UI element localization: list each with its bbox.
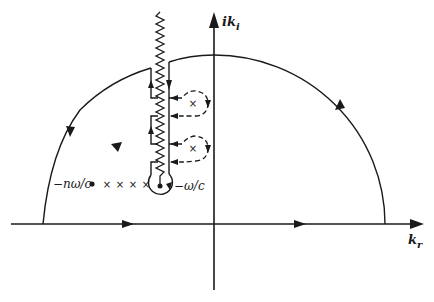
branch-cut	[156, 12, 164, 186]
pole-marker-icon: ×	[189, 98, 197, 109]
direction-arrow-icon	[205, 145, 211, 153]
pole-row-label: −nω/c	[53, 177, 92, 191]
imaginary-axis-arrowhead-icon	[209, 12, 219, 28]
pole-marker-icon: ×	[103, 179, 111, 190]
direction-arrow-icon	[205, 100, 211, 108]
contour-diagram: kr iki × × −ω/c −nω/c	[0, 0, 434, 302]
direction-arrow-icon	[294, 220, 306, 228]
pole-marker-icon: ×	[116, 179, 124, 190]
direction-arrow-icon	[166, 80, 172, 90]
imaginary-axis: iki	[209, 12, 240, 290]
direction-arrow-icon	[170, 159, 178, 165]
direction-arrow-icon	[148, 80, 154, 88]
pole-marker-icon: ×	[129, 179, 137, 190]
direction-arrow-icon	[111, 142, 122, 152]
pole-dot-icon	[89, 181, 94, 186]
direction-arrow-icon	[122, 220, 134, 228]
direction-arrow-icon	[148, 126, 154, 134]
direction-arrow-icon	[170, 113, 178, 119]
direction-arrow-icon	[335, 99, 345, 110]
branch-point-dot-icon	[158, 184, 163, 189]
real-axis-label: kr	[408, 232, 423, 250]
branch-point-label: −ω/c	[174, 179, 205, 193]
pole-marker-icon: ×	[142, 179, 150, 190]
direction-arrow-icon	[170, 95, 178, 101]
real-axis-arrowhead-icon	[410, 219, 424, 229]
real-axis: kr	[11, 219, 424, 250]
pole-marker-icon: ×	[189, 143, 197, 154]
imaginary-axis-label: iki	[222, 14, 240, 32]
direction-arrow-icon	[170, 141, 178, 147]
